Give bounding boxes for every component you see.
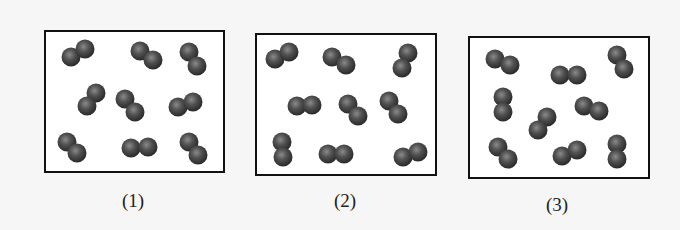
atom-sphere	[335, 145, 354, 164]
atom-sphere	[551, 66, 570, 85]
atom-sphere	[184, 93, 203, 112]
atom-sphere	[337, 56, 356, 75]
atom-sphere	[189, 146, 208, 165]
atom-sphere	[280, 43, 299, 62]
atom-sphere	[590, 102, 609, 121]
atom-sphere	[393, 59, 412, 78]
atom-sphere	[274, 148, 293, 167]
atom-sphere	[188, 57, 207, 76]
atom-sphere	[499, 150, 518, 169]
atom-sphere	[144, 51, 163, 70]
atom-sphere	[568, 66, 587, 85]
atom-sphere	[122, 139, 141, 158]
atom-sphere	[349, 107, 368, 126]
atom-sphere	[126, 103, 145, 122]
atom-sphere	[68, 144, 87, 163]
atom-sphere	[615, 60, 634, 79]
atom-sphere	[139, 138, 158, 157]
panel-label: (2)	[334, 190, 356, 212]
panel-2: (2)	[256, 34, 436, 212]
atom-sphere	[76, 40, 95, 59]
panels: (1)(2)(3)	[45, 31, 649, 216]
atom-sphere	[608, 150, 627, 169]
atom-sphere	[494, 103, 513, 122]
atom-sphere	[409, 143, 428, 162]
atom-sphere	[501, 56, 520, 75]
panel-3: (3)	[469, 37, 649, 216]
panel-label: (3)	[546, 194, 568, 216]
atom-sphere	[568, 141, 587, 160]
atom-sphere	[78, 97, 97, 116]
panel-1: (1)	[45, 31, 224, 212]
atom-sphere	[529, 121, 548, 140]
atom-sphere	[303, 96, 322, 115]
atom-sphere	[389, 105, 408, 124]
panel-label: (1)	[122, 190, 144, 212]
molecule-diagram: (1)(2)(3)	[0, 0, 680, 230]
